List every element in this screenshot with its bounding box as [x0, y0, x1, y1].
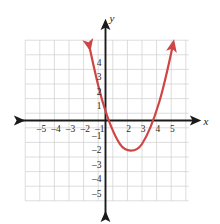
y-axis-label: y [109, 12, 115, 24]
x-axis-label: x [203, 115, 209, 127]
y-tick-label: –5 [91, 189, 102, 199]
x-tick-label: –2 [79, 124, 90, 134]
x-tick-label: 5 [170, 124, 175, 134]
parabola-curve [89, 45, 173, 150]
x-tick-label: 2 [126, 124, 131, 134]
x-tick-label: 3 [141, 124, 146, 134]
graph-figure: –5 –4 –3 –2 –1 2 3 4 5 4 3 2 1 –1 –2 –3 … [0, 0, 220, 224]
y-tick-label: 2 [97, 87, 102, 97]
y-tick-label: 4 [97, 58, 102, 68]
y-tick-label: –3 [91, 160, 102, 170]
x-tick-label: –5 [36, 124, 47, 134]
x-tick-label: 4 [155, 124, 160, 134]
y-tick-label: –4 [91, 174, 102, 184]
coordinate-plane: –5 –4 –3 –2 –1 2 3 4 5 4 3 2 1 –1 –2 –3 … [0, 0, 220, 224]
x-tick-label: –3 [65, 124, 76, 134]
y-tick-label: 1 [97, 101, 102, 111]
y-tick-label: –2 [91, 145, 102, 155]
y-tick-label: 3 [97, 72, 102, 82]
x-tick-label: –4 [50, 124, 61, 134]
y-tick-label: –1 [91, 131, 102, 141]
